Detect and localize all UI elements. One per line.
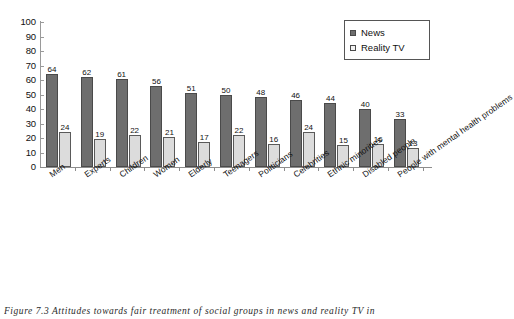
bar-group: 4816 [255,22,281,167]
bar-news[interactable]: 50 [220,95,232,168]
x-tick-mark [110,167,111,171]
bar-news[interactable]: 33 [394,119,406,167]
bar-news[interactable]: 64 [46,74,58,167]
bar-news[interactable]: 62 [81,77,93,167]
y-axis-tick-labels: 1009080706050403020100 [0,0,36,319]
bar-news[interactable]: 40 [359,109,371,167]
x-tick-mark [144,167,145,171]
figure-caption: Figure 7.3 Attitudes towards fair treatm… [4,305,442,317]
legend-swatch-news-icon [350,30,356,36]
bar-value-label: 22 [130,127,139,135]
bar-value-label: 44 [326,95,335,103]
bar-news[interactable]: 44 [324,103,336,167]
bar-group: 6122 [116,22,142,167]
y-tick-mark-80 [40,51,44,52]
bar-value-label: 56 [152,78,161,86]
bar-group: 5621 [150,22,176,167]
bar-group: 6424 [46,22,72,167]
bar-value-label: 33 [396,111,405,119]
y-tick-mark-30 [40,124,44,125]
chart-legend: News Reality TV [344,20,430,60]
bar-value-label: 15 [339,137,348,145]
bar-group: 6219 [81,22,107,167]
y-tick-label-70: 70 [10,61,36,71]
bar-news[interactable]: 61 [116,79,128,167]
legend-label-news: News [361,28,385,38]
y-tick-label-90: 90 [10,32,36,42]
bar-value-label: 61 [117,71,126,79]
bar-value-label: 21 [165,129,174,137]
bar-value-label: 16 [269,136,278,144]
y-tick-mark-60 [40,80,44,81]
bar-reality-tv[interactable]: 22 [129,135,141,167]
bar-value-label: 51 [187,85,196,93]
bar-value-label: 48 [256,89,265,97]
bar-group: 5022 [220,22,246,167]
legend-item-news: News [350,25,429,40]
bar-reality-tv[interactable]: 13 [407,148,419,167]
bar-value-label: 13 [409,140,418,148]
y-tick-label-30: 30 [10,119,36,129]
x-tick-mark [179,167,180,171]
bar-reality-tv[interactable]: 22 [233,135,245,167]
x-tick-mark [423,167,424,171]
x-tick-mark [214,167,215,171]
y-tick-label-20: 20 [10,133,36,143]
y-tick-label-80: 80 [10,46,36,56]
y-tick-label-50: 50 [10,90,36,100]
legend-swatch-reality-tv-icon [350,45,356,51]
bar-news[interactable]: 46 [290,100,302,167]
legend-item-reality-tv: Reality TV [350,40,429,55]
bar-value-label: 16 [374,136,383,144]
y-tick-label-0: 0 [10,162,36,172]
y-tick-mark-20 [40,138,44,139]
bar-value-label: 24 [61,124,70,132]
bar-reality-tv[interactable]: 24 [59,132,71,167]
bar-reality-tv[interactable]: 24 [303,132,315,167]
bar-news[interactable]: 48 [255,97,267,167]
bar-group: 5117 [185,22,211,167]
y-tick-mark-50 [40,95,44,96]
x-tick-mark [388,167,389,171]
bar-reality-tv[interactable]: 16 [372,144,384,167]
bar-group: 4624 [290,22,316,167]
x-tick-mark [284,167,285,171]
x-tick-mark [353,167,354,171]
x-tick-mark [75,167,76,171]
bar-news[interactable]: 51 [185,93,197,167]
bar-value-label: 62 [82,69,91,77]
bar-value-label: 46 [291,92,300,100]
x-tick-mark [318,167,319,171]
y-tick-mark-100 [40,22,44,23]
bar-value-label: 50 [222,87,231,95]
bar-news[interactable]: 56 [150,86,162,167]
bar-reality-tv[interactable]: 16 [268,144,280,167]
y-tick-mark-10 [40,153,44,154]
y-tick-label-10: 10 [10,148,36,158]
y-tick-label-100: 100 [10,17,36,27]
y-tick-mark-90 [40,37,44,38]
bar-value-label: 19 [95,131,104,139]
bar-value-label: 40 [361,101,370,109]
x-axis-line [40,167,432,168]
bar-value-label: 17 [200,134,209,142]
bar-reality-tv[interactable]: 19 [94,139,106,167]
x-tick-mark [249,167,250,171]
bar-value-label: 24 [304,124,313,132]
bar-value-label: 64 [48,66,57,74]
y-tick-label-40: 40 [10,104,36,114]
y-tick-mark-70 [40,66,44,67]
bar-reality-tv[interactable]: 17 [198,142,210,167]
bar-reality-tv[interactable]: 21 [163,137,175,167]
bar-reality-tv[interactable]: 15 [337,145,349,167]
y-tick-label-60: 60 [10,75,36,85]
y-tick-mark-40 [40,109,44,110]
legend-label-reality-tv: Reality TV [361,43,405,53]
bar-value-label: 22 [235,127,244,135]
